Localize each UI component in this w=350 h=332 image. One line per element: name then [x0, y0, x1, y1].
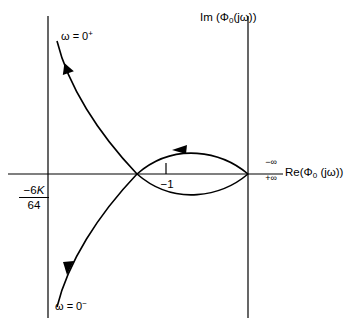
plus-infinity-label: +∞ — [259, 174, 283, 183]
gain-fraction-numerator: −6K — [14, 184, 54, 197]
arrow-on-loop-icon — [172, 145, 187, 154]
gain-fraction-denominator: 64 — [14, 198, 54, 211]
curve-loop-upper — [137, 153, 248, 174]
omega-zero-plus-text: ω = 0 — [61, 30, 88, 42]
curve-branch-omega-zero-minus — [57, 174, 137, 307]
real-axis-label: Re(Φ0 (jω)) — [285, 166, 343, 181]
real-axis-label-tail: (jω)) — [317, 166, 343, 178]
minus-infinity-label: −∞ — [259, 158, 283, 167]
minus-one-label: −1 — [156, 178, 178, 190]
gain-fraction-label: −6K 64 — [14, 184, 54, 211]
omega-zero-plus-superscript: + — [88, 29, 93, 38]
curve-branch-omega-zero-plus — [57, 41, 137, 174]
gain-fraction-numerator-prefix: −6 — [24, 184, 37, 196]
omega-zero-minus-text: ω = 0 — [55, 300, 82, 312]
imaginary-axis-label-head: Im (Φ — [200, 11, 229, 23]
omega-zero-minus-superscript: − — [82, 299, 87, 308]
omega-zero-minus-label: ω = 0− — [55, 300, 87, 312]
omega-zero-plus-label: ω = 0+ — [61, 30, 93, 42]
curve-loop-lower — [137, 174, 248, 195]
gain-fraction-numerator-symbol: K — [37, 184, 45, 196]
nyquist-figure: Im (Φ0(jω)) Re(Φ0 (jω)) −∞ +∞ −6K 64 ω =… — [0, 0, 350, 332]
imaginary-axis-label: Im (Φ0(jω)) — [200, 11, 257, 26]
real-axis-label-head: Re(Φ — [285, 166, 313, 178]
imaginary-axis-label-tail: (jω)) — [233, 11, 256, 23]
